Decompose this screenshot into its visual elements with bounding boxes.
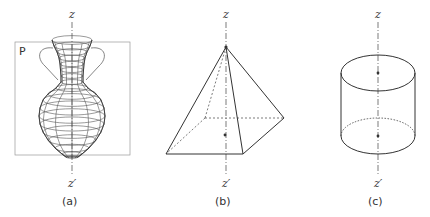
axis-bottom-label-a: z′ bbox=[67, 177, 77, 190]
hidden-edge-left bbox=[166, 118, 205, 154]
plane-p bbox=[15, 42, 130, 155]
axis-top-label-c: z bbox=[374, 8, 381, 21]
caption-a: (a) bbox=[62, 195, 77, 208]
apex-point bbox=[224, 45, 227, 48]
figure-c: z z′ bbox=[341, 8, 415, 190]
right-handle bbox=[86, 48, 104, 80]
figure-a: P z z′ bbox=[15, 8, 130, 190]
figure-b: z z′ bbox=[166, 8, 284, 190]
axis-bottom-label-b: z′ bbox=[221, 177, 231, 190]
hidden-edge-apex-back-left bbox=[205, 47, 226, 118]
pyramid-front-edge bbox=[226, 47, 243, 154]
diagram-canvas: P z z′ z z′ z z′ bbox=[0, 0, 430, 217]
bottom-center-point bbox=[377, 135, 380, 138]
top-center-point bbox=[377, 72, 380, 75]
base-center-point bbox=[224, 134, 227, 137]
plane-label: P bbox=[19, 45, 26, 58]
left-handle bbox=[40, 48, 58, 80]
vase-wireframe bbox=[39, 36, 105, 159]
vase-meridian bbox=[43, 42, 66, 158]
vase-meridian bbox=[39, 40, 66, 157]
vase-meridian bbox=[77, 42, 100, 158]
axis-top-label-b: z bbox=[222, 8, 229, 21]
axis-top-label-a: z bbox=[68, 8, 75, 21]
caption-c: (c) bbox=[368, 195, 383, 208]
vase-meridian bbox=[78, 40, 105, 157]
caption-b: (b) bbox=[215, 195, 231, 208]
axis-bottom-label-c: z′ bbox=[373, 177, 383, 190]
